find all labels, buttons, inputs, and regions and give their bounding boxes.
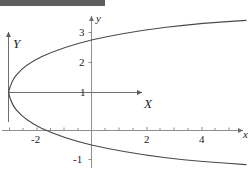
graph-svg [0, 0, 250, 173]
y-tick-label-neg1: -1 [73, 153, 82, 165]
x-tick-label-2: 2 [144, 133, 150, 145]
axis-label-Y-upper-case: Y [13, 36, 20, 52]
axis-label-X-upper-case: X [144, 96, 152, 112]
axis-label-y-lower-case: y [96, 12, 101, 24]
lower-x-axis [2, 127, 243, 131]
figure-canvas: y x X Y -2 2 4 3 2 1 -1 [0, 0, 250, 173]
axis-label-x-lower-case: x [243, 128, 248, 140]
y-tick-label-3: 3 [79, 26, 85, 38]
x-tick-label-neg2: -2 [31, 133, 40, 145]
parabola-upper-branch [9, 20, 247, 92]
y-tick-label-2: 2 [79, 56, 85, 68]
parabola-lower-branch [9, 93, 247, 165]
x-tick-label-4: 4 [199, 133, 205, 145]
y-tick-label-1: 1 [80, 86, 86, 98]
